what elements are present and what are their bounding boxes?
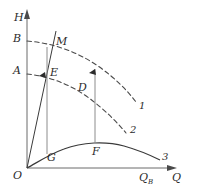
point-label-d: D bbox=[78, 82, 87, 93]
y-axis-arrowhead bbox=[24, 9, 30, 19]
axis-label-q: Q bbox=[172, 172, 181, 183]
pump-characteristic-diagram: H B A M E D G F O 1 2 3 QB Q bbox=[0, 0, 197, 192]
marker-arrow-d bbox=[89, 69, 96, 75]
axis-label-qb-subscript: B bbox=[148, 178, 153, 186]
curve-label-1: 1 bbox=[139, 101, 145, 111]
point-label-a: A bbox=[13, 65, 21, 76]
point-label-m: M bbox=[56, 36, 67, 47]
axis-label-qb: QB bbox=[139, 172, 153, 186]
origin-label-o: O bbox=[13, 170, 22, 181]
axis-label-h: H bbox=[14, 12, 24, 23]
system-resistance-line bbox=[27, 31, 56, 168]
point-label-e: E bbox=[50, 67, 58, 78]
axis-label-qb-base: Q bbox=[139, 171, 148, 184]
curve-2-head-lower bbox=[27, 74, 126, 133]
curve-label-3: 3 bbox=[162, 152, 168, 162]
curve-label-2: 2 bbox=[130, 125, 136, 135]
point-label-b: B bbox=[13, 33, 21, 44]
connector-group bbox=[27, 31, 95, 168]
point-label-f: F bbox=[92, 146, 100, 157]
diagram-canvas bbox=[0, 0, 197, 192]
point-label-g: G bbox=[47, 152, 56, 163]
